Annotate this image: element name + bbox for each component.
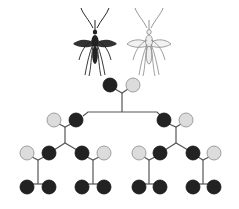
dark-node-gen4 xyxy=(132,180,146,194)
dark-node-gen2 xyxy=(157,113,171,127)
dark-node-gen3 xyxy=(186,146,200,160)
pedigree-connectors xyxy=(32,89,209,184)
dark-node-gen3 xyxy=(153,146,167,160)
dark-mosquito-icon xyxy=(73,8,117,76)
dark-node-gen2 xyxy=(69,113,83,127)
dark-node-gen4 xyxy=(42,180,56,194)
dark-node-gen4 xyxy=(75,180,89,194)
light-node-gen3 xyxy=(97,146,111,160)
dark-node-gen4 xyxy=(20,180,34,194)
light-node-gen3 xyxy=(132,146,146,160)
dark-node-gen3 xyxy=(75,146,89,160)
dark-node-gen4 xyxy=(153,180,167,194)
dark-node-gen4 xyxy=(186,180,200,194)
light-mosquito-icon xyxy=(127,8,171,76)
light-node-gen1 xyxy=(126,78,140,92)
light-node-gen2 xyxy=(179,113,193,127)
pedigree-nodes xyxy=(20,78,221,194)
dark-node-gen1 xyxy=(103,78,117,92)
dark-node-gen3 xyxy=(42,146,56,160)
pedigree-diagram xyxy=(0,0,239,209)
light-node-gen3 xyxy=(207,146,221,160)
dark-node-gen4 xyxy=(207,180,221,194)
light-node-gen3 xyxy=(20,146,34,160)
diagram-canvas xyxy=(0,0,239,209)
dark-node-gen4 xyxy=(97,180,111,194)
light-node-gen2 xyxy=(47,113,61,127)
